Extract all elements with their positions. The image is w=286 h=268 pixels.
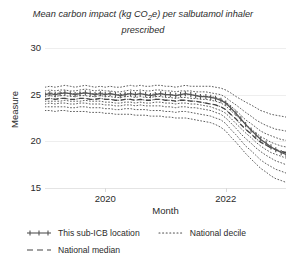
y-tick-label: 30	[13, 42, 41, 53]
this-sub-icb-location-line	[45, 93, 286, 155]
x-axis-label: Month	[45, 205, 286, 216]
x-tick-label: 2020	[85, 193, 125, 204]
legend-item-this-sub-icb-location[interactable]: This sub-ICB location	[26, 228, 140, 238]
y-tick-label: 20	[13, 135, 41, 146]
x-tick-mark	[105, 188, 106, 192]
plot-area	[45, 48, 286, 188]
decile-line-10th	[45, 111, 286, 183]
decile-line-30th	[45, 103, 286, 165]
chart-legend: This sub-ICB location National decile	[26, 224, 276, 258]
y-tick-label: 15	[13, 182, 41, 193]
x-tick-mark	[226, 188, 227, 192]
chart-title-text: Mean carbon impact (kg CO2e) per salbuta…	[33, 9, 253, 35]
y-axis-label: Measure	[9, 75, 20, 145]
x-tick-label: 2022	[206, 193, 246, 204]
legend-label-this-sub-icb-location: This sub-ICB location	[58, 228, 140, 238]
y-tick-label: 25	[13, 89, 41, 100]
legend-label-national-decile: National decile	[190, 228, 246, 238]
solid-marker-line-icon	[26, 228, 52, 238]
chart-root: Mean carbon impact (kg CO2e) per salbuta…	[0, 0, 286, 268]
legend-item-national-median[interactable]: National median	[26, 245, 120, 255]
dashed-line-icon	[26, 245, 52, 255]
x-axis-line	[45, 188, 286, 189]
dotted-line-icon	[158, 228, 184, 238]
chart-title: Mean carbon impact (kg CO2e) per salbuta…	[22, 8, 264, 37]
decile-line-20th	[45, 107, 286, 173]
legend-label-national-median: National median	[58, 245, 120, 255]
legend-item-national-decile[interactable]: National decile	[158, 228, 246, 238]
